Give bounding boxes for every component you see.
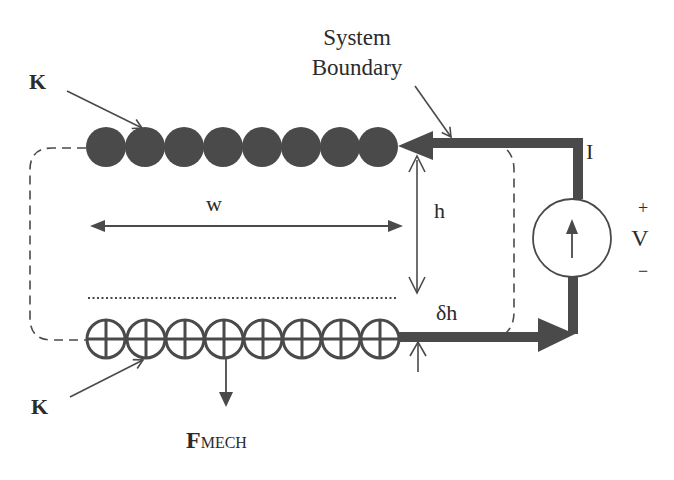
force-label-subscript: MECH — [201, 434, 248, 451]
voltage-label: V — [631, 225, 649, 251]
current-source — [533, 199, 611, 277]
top-conductor-row — [86, 127, 398, 167]
force-arrowhead — [219, 392, 233, 407]
system-boundary-pointer — [415, 86, 451, 137]
system-boundary-label-line2: Boundary — [312, 55, 403, 80]
delta-h-label: δh — [436, 300, 457, 325]
system-boundary-label-line1: System — [323, 25, 391, 50]
k-top-pointer — [67, 91, 142, 128]
force-label-main: F — [186, 427, 201, 453]
current-label: I — [586, 139, 593, 164]
k-bottom-label: K — [31, 394, 48, 419]
k-bottom-pointer — [70, 360, 143, 397]
electromechanical-diagram: System Boundary K K w h δh I + V − FMECH — [0, 0, 674, 480]
width-label: w — [206, 191, 222, 216]
bottom-conductor-row — [87, 320, 399, 358]
current-arrowhead-top — [398, 131, 433, 160]
height-label: h — [434, 198, 445, 223]
k-top-label: K — [29, 69, 46, 94]
voltage-minus-label: − — [638, 261, 648, 281]
voltage-plus-label: + — [638, 198, 648, 218]
force-label: FMECH — [186, 427, 247, 453]
